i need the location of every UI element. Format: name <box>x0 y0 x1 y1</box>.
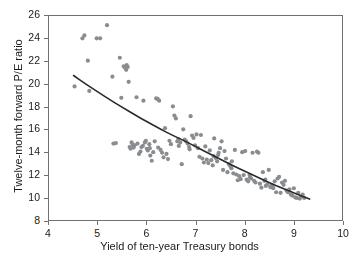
y-tick-mark-22 <box>44 61 48 62</box>
scatter-chart: 8101214161820222426 45678910 Yield of te… <box>0 0 359 261</box>
x-tick-mark-9 <box>294 221 295 225</box>
x-tick-4: 4 <box>37 228 59 239</box>
y-tick-8: 8 <box>18 215 40 226</box>
y-tick-mark-14 <box>44 152 48 153</box>
x-tick-10: 10 <box>332 228 354 239</box>
y-tick-mark-18 <box>44 107 48 108</box>
x-tick-7: 7 <box>185 228 207 239</box>
y-tick-mark-24 <box>44 38 48 39</box>
y-tick-mark-16 <box>44 129 48 130</box>
x-tick-mark-10 <box>343 221 344 225</box>
x-tick-mark-8 <box>245 221 246 225</box>
y-tick-mark-26 <box>44 15 48 16</box>
plot-canvas <box>49 16 344 222</box>
y-axis-title: Twelve-month forward P/E ratio <box>12 16 24 216</box>
x-tick-mark-7 <box>196 221 197 225</box>
y-tick-mark-20 <box>44 84 48 85</box>
x-tick-mark-5 <box>97 221 98 225</box>
x-tick-5: 5 <box>86 228 108 239</box>
y-tick-mark-12 <box>44 175 48 176</box>
plot-area <box>48 15 343 221</box>
x-tick-mark-4 <box>48 221 49 225</box>
x-tick-mark-6 <box>146 221 147 225</box>
x-tick-6: 6 <box>135 228 157 239</box>
x-tick-9: 9 <box>283 228 305 239</box>
x-axis-title: Yield of ten-year Treasury bonds <box>0 240 359 252</box>
x-tick-8: 8 <box>234 228 256 239</box>
y-tick-mark-10 <box>44 198 48 199</box>
